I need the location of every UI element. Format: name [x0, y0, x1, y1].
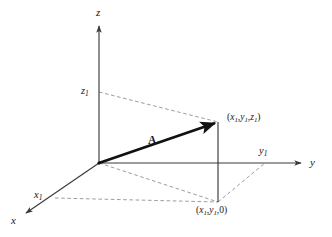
coordinate-system-diagram	[0, 0, 332, 237]
origin-point	[98, 162, 101, 165]
dashed-z1-to-point	[99, 92, 218, 122]
y1-subscript: 1	[264, 149, 268, 158]
x1-tick-label: x1	[34, 190, 42, 201]
z1-subscript: 1	[85, 89, 89, 98]
z-axis-label: z	[96, 7, 100, 18]
dashed-x1-to-foot	[55, 198, 218, 202]
x-axis-label: x	[11, 215, 16, 226]
pxyz-close: )	[257, 112, 260, 122]
dashed-origin-to-foot	[99, 163, 218, 202]
x-axis-line	[26, 163, 99, 213]
pxy0-close: )	[224, 205, 227, 215]
vector-a-label: A	[148, 135, 156, 147]
dashed-construction-lines	[55, 92, 265, 202]
y-axis-label: y	[310, 157, 315, 168]
y1-tick-label: y1	[259, 146, 267, 157]
vector-a-group	[99, 124, 214, 164]
vector-a-shaft	[99, 124, 214, 164]
figure-root: z y x z1 y1 x1 A (x1,y1,z1) (x1,y1,0)	[0, 0, 332, 237]
point-xyz-label: (x1,y1,z1)	[227, 113, 261, 123]
point-xy0-label: (x1,y1,0)	[196, 206, 227, 216]
z1-tick-label: z1	[81, 86, 89, 97]
x1-subscript: 1	[39, 193, 43, 202]
dashed-foot-to-y1	[218, 163, 265, 202]
